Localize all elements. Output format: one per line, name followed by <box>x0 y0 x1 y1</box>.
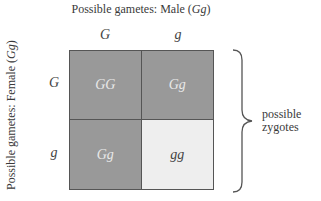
female-title-suffix: ) <box>4 40 18 44</box>
column-label-g: g <box>142 27 214 43</box>
cell-GG: GG <box>70 51 142 120</box>
male-gametes-title: Possible gametes: Male (Gg) <box>0 2 282 17</box>
male-title-genotype: Gg <box>192 2 207 16</box>
possible-zygotes-label: possible zygotes <box>262 108 301 134</box>
row-label-G: G <box>44 75 64 91</box>
curly-brace-icon <box>230 48 258 194</box>
female-gametes-title: Possible gametes: Female (Gg) <box>4 30 19 190</box>
row-label-g: g <box>44 145 64 161</box>
column-label-G: G <box>69 27 141 43</box>
male-title-suffix: ) <box>206 2 210 16</box>
punnett-grid: GG Gg Gg gg <box>69 50 214 190</box>
female-title-genotype: Gg <box>4 44 18 59</box>
cell-Gg-bottom-left: Gg <box>70 120 142 189</box>
cell-Gg-top-right: Gg <box>142 51 214 120</box>
brace-label-line2: zygotes <box>262 121 301 134</box>
cell-gg: gg <box>142 120 214 189</box>
female-title-prefix: Possible gametes: Female ( <box>4 59 18 190</box>
male-title-prefix: Possible gametes: Male ( <box>72 2 192 16</box>
